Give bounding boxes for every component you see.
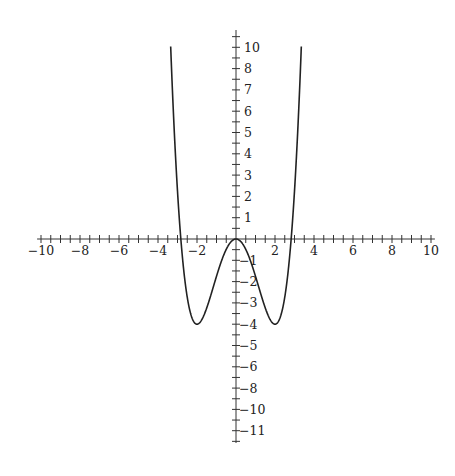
function-plot: −10−8−6−4−22468101234567810−1−2−3−4−5−6−… xyxy=(0,0,455,476)
x-tick-label: 4 xyxy=(310,243,318,258)
y-tick-label: 2 xyxy=(244,189,252,204)
y-tick-label: 7 xyxy=(244,82,252,97)
x-tick-label: −2 xyxy=(188,243,206,258)
y-tick-label: −5 xyxy=(239,338,257,353)
y-tick-label: −2 xyxy=(239,274,257,289)
y-tick-label: −3 xyxy=(239,295,257,310)
x-tick-label: −10 xyxy=(28,243,54,258)
y-tick-label: −11 xyxy=(239,423,265,438)
y-tick-label: 4 xyxy=(244,146,252,161)
y-tick-label: 6 xyxy=(244,104,252,119)
x-tick-label: −4 xyxy=(149,243,167,258)
y-tick-label: 1 xyxy=(244,210,252,225)
y-tick-label: −4 xyxy=(239,317,257,332)
x-tick-label: 8 xyxy=(388,243,396,258)
y-tick-label: 5 xyxy=(244,125,252,140)
y-tick-label: 3 xyxy=(244,168,252,183)
x-tick-label: 2 xyxy=(271,243,279,258)
y-tick-label: 8 xyxy=(244,61,252,76)
y-tick-label: 10 xyxy=(244,40,260,55)
x-tick-label: 6 xyxy=(349,243,357,258)
y-tick-label: −8 xyxy=(239,381,257,396)
y-tick-label: −6 xyxy=(239,359,257,374)
x-tick-label: 10 xyxy=(423,243,439,258)
x-tick-label: −8 xyxy=(71,243,89,258)
axes xyxy=(37,30,435,443)
y-tick-label: −10 xyxy=(239,402,265,417)
x-tick-label: −6 xyxy=(110,243,128,258)
